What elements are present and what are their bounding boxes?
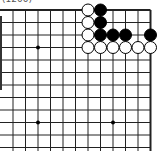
black-stone[interactable] bbox=[95, 17, 107, 29]
go-board[interactable] bbox=[0, 0, 158, 151]
black-stone[interactable] bbox=[145, 29, 157, 41]
white-stone[interactable] bbox=[132, 42, 144, 54]
white-stone[interactable] bbox=[82, 42, 94, 54]
black-stone[interactable] bbox=[95, 29, 107, 41]
white-stone[interactable] bbox=[82, 29, 94, 41]
white-stone[interactable] bbox=[82, 4, 94, 16]
star-point bbox=[36, 46, 40, 50]
white-stone[interactable] bbox=[82, 17, 94, 29]
white-stone[interactable] bbox=[107, 42, 119, 54]
white-stone[interactable] bbox=[95, 42, 107, 54]
star-point bbox=[111, 121, 115, 125]
star-point bbox=[36, 121, 40, 125]
black-stone[interactable] bbox=[120, 29, 132, 41]
white-stone[interactable] bbox=[120, 42, 132, 54]
white-stone[interactable] bbox=[145, 42, 157, 54]
black-stone[interactable] bbox=[107, 29, 119, 41]
black-stone[interactable] bbox=[95, 4, 107, 16]
